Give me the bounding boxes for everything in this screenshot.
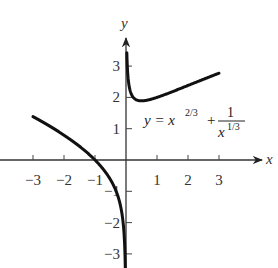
x-tick-label: 1 bbox=[153, 172, 161, 188]
y-tick-label: −3 bbox=[104, 246, 120, 262]
x-tick-label: −1 bbox=[87, 172, 103, 188]
equation-denominator-exponent: 1/3 bbox=[227, 121, 240, 132]
x-tick-label: 3 bbox=[215, 172, 223, 188]
equation-label: y = x 2/3 + 1 x 1/3 bbox=[142, 105, 245, 140]
y-tick-label: 2 bbox=[113, 89, 121, 105]
equation-denominator-base: x bbox=[217, 124, 225, 140]
curve-positive-branch bbox=[127, 53, 219, 101]
equation-exponent: 2/3 bbox=[185, 107, 198, 118]
y-tick-label: 1 bbox=[113, 121, 121, 137]
x-tick-label: −3 bbox=[25, 172, 41, 188]
equation-numerator: 1 bbox=[227, 105, 234, 120]
equation-lhs: y = x bbox=[142, 112, 175, 128]
x-tick-label: −2 bbox=[56, 172, 72, 188]
y-tick-label: 3 bbox=[113, 58, 121, 74]
x-axis-label: x bbox=[265, 151, 273, 167]
x-tick-label: 2 bbox=[184, 172, 192, 188]
function-graph: x y −3−2−1123 −3−2−1123 y = x 2/3 + 1 x … bbox=[0, 0, 278, 268]
y-axis-label: y bbox=[119, 15, 128, 31]
y-tick-label: −2 bbox=[104, 215, 120, 231]
equation-plus: + bbox=[207, 112, 215, 128]
